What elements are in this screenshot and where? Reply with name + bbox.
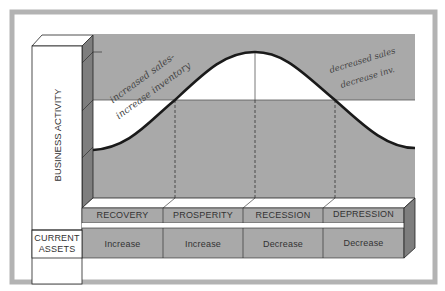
phase-label-depression: DEPRESSION	[323, 209, 404, 219]
assets-value-depression: Decrease	[323, 238, 404, 248]
phase-label-recession: RECESSION	[243, 210, 323, 220]
assets-value-recession: Decrease	[243, 239, 323, 249]
business-cycle-diagram: BUSINESS ACTIVITY increased sales- incre…	[0, 0, 445, 291]
row-label-current: CURRENT	[32, 233, 82, 243]
phase-label-recovery: RECOVERY	[82, 210, 163, 220]
phase-label-prosperity: PROSPERITY	[163, 210, 243, 220]
y-axis-label: BUSINESS ACTIVITY	[52, 89, 63, 182]
platform-side-face	[404, 198, 415, 258]
row-label-assets: ASSETS	[32, 244, 82, 254]
platform-top	[82, 198, 415, 208]
pillar-top-face	[32, 35, 93, 46]
assets-value-recovery: Increase	[82, 239, 163, 249]
assets-value-prosperity: Increase	[163, 239, 243, 249]
